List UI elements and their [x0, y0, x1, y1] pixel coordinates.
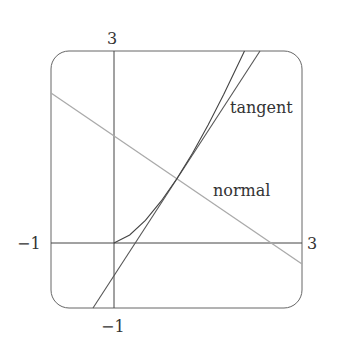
x-min-label: −1: [17, 234, 41, 253]
x-max-label: 3: [307, 234, 317, 253]
normal-label: normal: [213, 181, 270, 200]
curve: [114, 51, 245, 243]
tangent-normal-diagram: 3 −1 −1 3 tangent normal: [0, 0, 337, 348]
y-max-label: 3: [107, 29, 117, 48]
tangent-label: tangent: [230, 98, 293, 117]
y-min-label: −1: [101, 317, 125, 336]
